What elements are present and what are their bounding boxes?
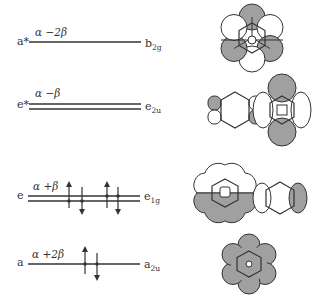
energy-label: α −β: [35, 87, 60, 99]
level-e2u: e* α −β e2u: [17, 87, 161, 115]
energy-label: α +β: [33, 180, 58, 192]
mo-diagram: a* α −2β b2g e* α −β e2u e α +β e1g: [0, 0, 323, 307]
energy-label: α +2β: [32, 248, 64, 260]
level-label-left: e*: [17, 98, 30, 111]
orbital-e1g-b-picture: [253, 182, 307, 214]
level-label-left: a: [17, 256, 24, 269]
orbital-a2u-picture: [222, 234, 276, 294]
level-label-left: e: [17, 189, 24, 202]
level-a2u: a α +2β a2u: [17, 248, 160, 278]
level-label-right: e1g: [144, 190, 160, 205]
level-label-right: e2u: [145, 100, 161, 115]
orbital-e2u-b-picture: [253, 74, 311, 146]
electron-pair: [67, 184, 84, 212]
electron-pair: [105, 184, 120, 212]
level-e1g: e α +β e1g: [17, 180, 160, 212]
orbital-b2g-picture: [221, 4, 283, 72]
level-label-left: a*: [17, 35, 30, 48]
level-label-right: b2g: [145, 37, 162, 52]
level-b2g: a* α −2β b2g: [17, 26, 162, 52]
energy-label: α −2β: [35, 26, 67, 38]
orbital-e1g-a-picture: [194, 163, 256, 222]
level-label-right: a2u: [144, 258, 160, 273]
